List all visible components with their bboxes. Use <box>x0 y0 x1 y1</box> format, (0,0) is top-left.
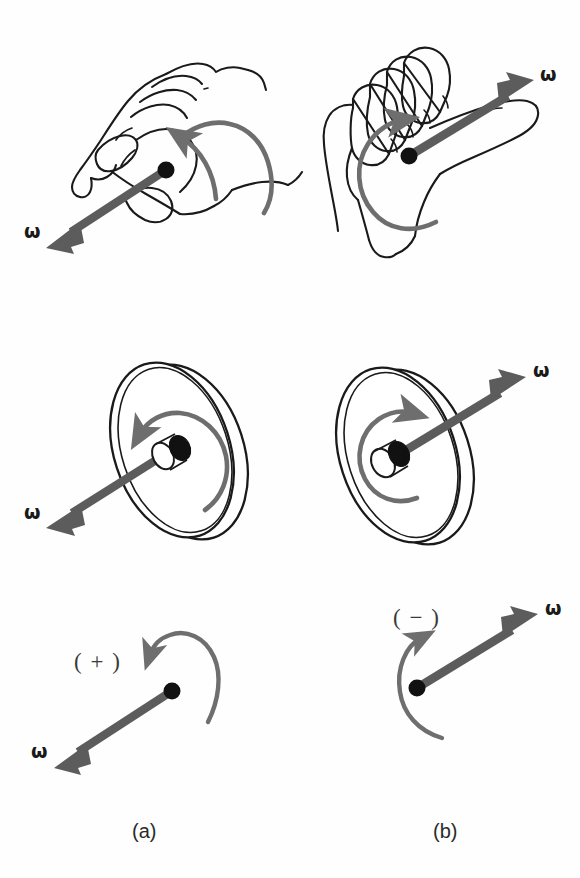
axis-origin-dot-hand-b <box>401 148 418 165</box>
omega-label-vector-b: ω <box>545 599 562 618</box>
panel-caption-b: (b) <box>433 821 457 841</box>
axis-origin-dot-hand-a <box>158 162 175 179</box>
figure-artwork <box>0 0 580 878</box>
omega-label-wheel-b: ω <box>533 361 550 380</box>
omega-label-wheel-a: ω <box>24 503 41 522</box>
wheel-illustration-a <box>46 346 269 555</box>
sign-label-positive: ( + ) <box>74 650 121 673</box>
axis-origin-dot-vector-a <box>164 683 181 700</box>
wheel-illustration-b <box>315 351 526 560</box>
axis-origin-dot-vector-b <box>409 680 426 697</box>
physics-figure-right-hand-rule: ω ω ω ω ω ω ( + ) ( − ) (a) (b) <box>0 0 580 878</box>
omega-label-vector-a: ω <box>31 742 48 761</box>
omega-label-hand-a: ω <box>24 222 41 241</box>
panel-caption-a: (a) <box>132 821 156 841</box>
sign-label-negative: ( − ) <box>393 606 440 629</box>
omega-label-hand-b: ω <box>540 65 557 84</box>
